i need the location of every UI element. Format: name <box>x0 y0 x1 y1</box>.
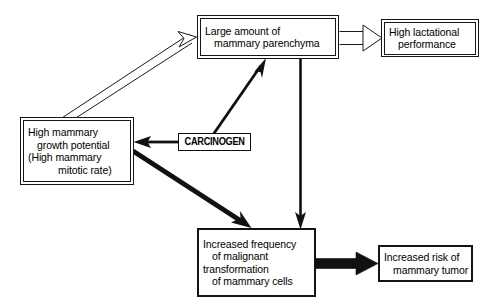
node-body: High mammary growth potential (High mamm… <box>23 120 131 182</box>
node-body: Large amount of mammary parenchyma <box>200 18 336 56</box>
node-text-line: mitotic rate) <box>28 164 126 177</box>
node-text-line: performance <box>389 38 471 51</box>
node-text-line: of malignant <box>203 250 310 263</box>
node-mammary-growth-potential[interactable]: High mammary growth potential (High mamm… <box>20 117 134 185</box>
node-text-line: Increased risk of <box>384 251 467 264</box>
edge-carcinogen-to-parenchyma <box>213 58 267 136</box>
node-carcinogen[interactable]: CARCINOGEN <box>178 133 251 151</box>
node-text-line: High mammary <box>28 126 126 139</box>
node-text-line: of mammary cells <box>203 275 310 288</box>
node-text-line: CARCINOGEN <box>184 136 244 149</box>
edge-parenchyma-to-lactation <box>340 25 383 51</box>
node-lactational-performance[interactable]: High lactational performance <box>381 19 479 57</box>
node-text-line: Large amount of <box>205 25 331 38</box>
node-mammary-parenchyma[interactable]: Large amount of mammary parenchyma <box>197 15 339 59</box>
node-body: Increased frequency of malignant transfo… <box>199 230 314 295</box>
node-mammary-tumor-risk[interactable]: Increased risk of mammary tumor <box>378 245 473 282</box>
node-malignant-transformation[interactable]: Increased frequency of malignant transfo… <box>197 228 316 297</box>
node-text-line: (High mammary <box>28 151 126 164</box>
flow-diagram: High mammary growth potential (High mamm… <box>0 0 503 308</box>
edge-parenchyma-to-malignant <box>295 58 306 230</box>
edge-malignant-to-tumor <box>316 252 378 275</box>
node-text-line: High lactational <box>389 26 471 39</box>
node-body: Increased risk of mammary tumor <box>380 247 471 280</box>
edge-growth-to-parenchyma <box>60 32 197 120</box>
edge-carcinogen-to-growth <box>134 136 179 148</box>
node-text-line: mammary parenchyma <box>205 37 331 50</box>
node-text-line: growth potential <box>28 139 126 152</box>
node-body: High lactational performance <box>384 22 476 55</box>
edge-growth-to-malignant <box>133 151 252 228</box>
node-text-line: Increased frequency <box>203 238 310 251</box>
node-text-line: transformation <box>203 263 310 276</box>
node-text-line: mammary tumor <box>384 264 467 277</box>
